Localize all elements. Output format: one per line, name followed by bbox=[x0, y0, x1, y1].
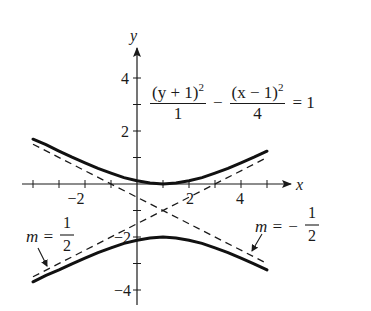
y-axis-label: y bbox=[128, 27, 138, 45]
x-tick-label-neg2: −2 bbox=[67, 190, 84, 207]
x-axis: x −2 2 4 bbox=[22, 176, 303, 207]
annotation-slope-neg: m = − 1 2 bbox=[252, 204, 319, 251]
slope-pos-m: m = bbox=[26, 227, 54, 246]
equation-minus: − bbox=[213, 93, 223, 113]
y-axis: y 4 2 −2 −4 bbox=[114, 27, 141, 305]
slope-neg-numerator: 1 bbox=[308, 204, 316, 221]
slope-neg-arrow bbox=[252, 234, 262, 251]
term-y-exponent: 2 bbox=[198, 81, 204, 93]
equation-term-y: (y + 1)2 1 bbox=[150, 84, 206, 123]
term-x-base: (x − 1) bbox=[232, 83, 278, 102]
slope-pos-numerator: 1 bbox=[63, 214, 71, 231]
equation-rhs: = 1 bbox=[292, 93, 314, 113]
term-y-denominator: 1 bbox=[174, 104, 183, 123]
equation-term-x: (x − 1)2 4 bbox=[230, 84, 286, 123]
slope-neg-denominator: 2 bbox=[308, 227, 316, 244]
term-y-numerator: (y + 1)2 bbox=[150, 84, 206, 104]
hyperbola-equation: (y + 1)2 1 − (x − 1)2 4 = 1 bbox=[150, 84, 315, 123]
y-tick-label-neg4: −4 bbox=[114, 282, 131, 299]
x-axis-label: x bbox=[295, 176, 303, 193]
annotation-slope-pos: m = 1 2 bbox=[26, 214, 74, 266]
term-x-exponent: 2 bbox=[278, 81, 284, 93]
hyperbola bbox=[33, 139, 267, 282]
y-tick-label-4: 4 bbox=[121, 70, 129, 87]
hyperbola-graph: x −2 2 4 y 4 2 −2 −4 m = 1 bbox=[0, 0, 371, 311]
slope-neg-m: m = − bbox=[255, 217, 299, 236]
x-tick-label-4: 4 bbox=[236, 190, 244, 207]
term-y-base: (y + 1) bbox=[152, 83, 198, 102]
asymptotes bbox=[33, 144, 267, 277]
slope-pos-arrow bbox=[38, 248, 47, 266]
term-x-denominator: 4 bbox=[253, 104, 262, 123]
slope-pos-denominator: 2 bbox=[63, 237, 71, 254]
term-x-numerator: (x − 1)2 bbox=[230, 84, 286, 104]
y-tick-label-2: 2 bbox=[121, 123, 129, 140]
